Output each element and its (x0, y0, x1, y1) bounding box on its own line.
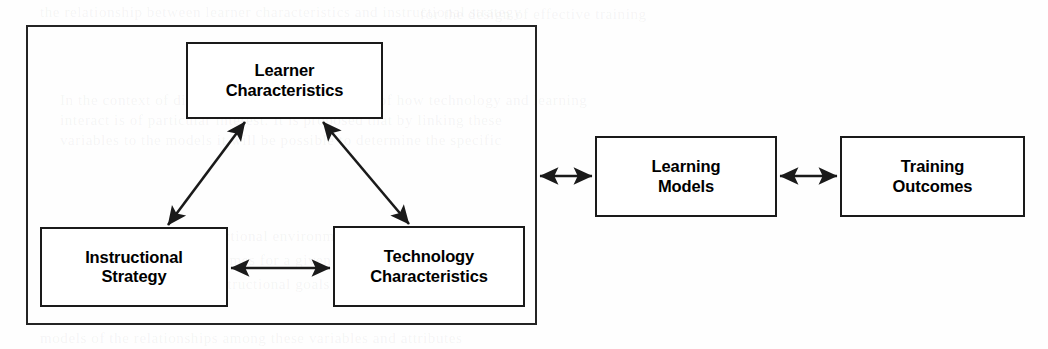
node-learning-models: Learning Models (595, 136, 777, 217)
diagram-figure: Learner Characteristics Instructional St… (0, 0, 1048, 349)
node-instructional-strategy: Instructional Strategy (40, 227, 228, 307)
node-label-training-outcomes: Training Outcomes (893, 157, 973, 196)
node-label-technology-characteristics: Technology Characteristics (370, 247, 488, 286)
node-label-learner-characteristics: Learner Characteristics (226, 61, 344, 100)
node-label-instructional-strategy: Instructional Strategy (85, 248, 183, 287)
figure-page: the relationship between learner charact… (0, 0, 1048, 349)
node-learner-characteristics: Learner Characteristics (186, 42, 383, 119)
node-training-outcomes: Training Outcomes (840, 136, 1025, 217)
node-technology-characteristics: Technology Characteristics (333, 226, 525, 307)
node-label-learning-models: Learning Models (652, 157, 721, 196)
